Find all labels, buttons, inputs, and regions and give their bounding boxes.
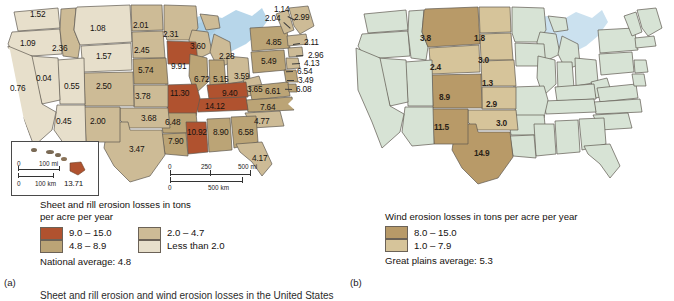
legend-b-title: Wind erosion losses in tons per acre per… (385, 211, 578, 223)
legend-label-48-89: 4.8 – 8.9 (69, 240, 106, 252)
value-label-mn: 2.31 (163, 30, 178, 38)
value-label-or: 1.09 (20, 39, 35, 47)
value-label-va: 6.61 (265, 87, 280, 95)
value-label-ca: 0.76 (10, 84, 25, 92)
value-label-hi: 13.71 (64, 180, 83, 188)
value-label-mo: 11.30 (170, 89, 189, 97)
legend-item-wind-1-79: 1.0 – 7.9 (385, 239, 451, 252)
value-label-pa: 5.49 (261, 57, 276, 65)
legend-label-wind-8-15: 8.0 – 15.0 (414, 227, 457, 239)
value-label-ma: 2.11 (304, 38, 319, 46)
value-label-b-wy: 2.4 (430, 63, 441, 71)
map-a-legend: Sheet and rill erosion losses in tons pe… (40, 199, 236, 268)
legend-b-average: Great plains average: 5.3 (385, 255, 578, 267)
value-label-ut: 0.55 (64, 82, 79, 90)
value-label-b-co: 8.9 (439, 93, 450, 101)
value-label-wv: 3.65 (247, 85, 262, 93)
legend-swatch-lt20 (138, 240, 161, 253)
panel-b-letter: (b) (350, 277, 362, 288)
value-label-wy: 1.57 (96, 52, 111, 60)
value-label-b-ks: 2.9 (486, 100, 497, 108)
value-label-tn: 14.12 (205, 102, 225, 110)
value-label-id: 2.36 (52, 44, 67, 52)
value-label-sd: 2.45 (134, 46, 149, 54)
map-a-scalebar: 0 250 500 mi 0 500 km (168, 163, 278, 197)
value-label-md: 6.08 (296, 85, 311, 93)
legend-a-rows: 9.0 – 15.0 2.0 – 4.7 4.8 – 8.9 Less than (40, 227, 236, 253)
legend-swatch-9-15 (40, 227, 63, 240)
panel-wind-erosion: 3.8 1.8 3.0 2.4 1.3 8.9 2.9 3.0 11.5 14.… (340, 0, 674, 296)
value-label-nd: 2.01 (133, 21, 148, 29)
value-label-b-ok: 3.0 (496, 119, 507, 127)
legend-row: 8.0 – 15.0 (385, 226, 578, 239)
value-label-b-mt: 3.8 (420, 34, 431, 42)
legend-label-lt20: Less than 2.0 (167, 240, 225, 252)
legend-a-title: Sheet and rill erosion losses in tons pe… (40, 199, 236, 224)
value-label-ky: 9.40 (222, 89, 237, 97)
legend-row: 9.0 – 15.0 2.0 – 4.7 (40, 227, 236, 240)
hawaii-inset: 0 100 mi 0 100 km 13.71 (11, 141, 99, 196)
legend-row: 4.8 – 8.9 Less than 2.0 (40, 240, 236, 253)
value-label-mt: 1.08 (90, 24, 105, 32)
value-label-nc: 7.64 (260, 103, 275, 111)
value-label-ia: 9.91 (171, 62, 186, 70)
value-label-nv: 0.04 (36, 74, 51, 82)
value-label-mi: 2.28 (219, 52, 234, 60)
value-label-b-tx: 14.9 (474, 149, 489, 157)
legend-swatch-wind-1-79 (385, 239, 408, 252)
value-label-ne: 5.74 (138, 66, 153, 74)
value-label-b-sd: 3.0 (478, 56, 489, 64)
value-label-ny: 4.85 (266, 38, 281, 46)
legend-a-average: National average: 4.8 (40, 256, 236, 268)
legend-swatch-2-47 (138, 227, 161, 240)
value-label-b-ne: 1.3 (482, 79, 493, 87)
value-label-tx: 3.47 (129, 145, 144, 153)
legend-swatch-wind-8-15 (385, 226, 408, 239)
legend-swatch-48-89 (40, 240, 63, 253)
legend-item-48-89: 4.8 – 8.9 (40, 240, 138, 253)
value-label-sc: 4.77 (254, 117, 269, 125)
panel-a-letter: (a) (4, 277, 16, 288)
value-label-al: 8.90 (213, 128, 228, 136)
value-label-ok: 3.68 (141, 114, 156, 122)
value-label-me: 2.99 (294, 13, 309, 21)
figure-caption: Sheet and rill erosion and wind erosion … (40, 290, 334, 301)
value-label-az: 0.45 (56, 117, 71, 125)
value-label-fl: 4.17 (252, 154, 267, 162)
value-label-wa: 1.52 (30, 10, 45, 18)
legend-item-lt20: Less than 2.0 (138, 240, 236, 253)
value-label-nh: 2.04 (265, 14, 280, 22)
value-label-la: 7.90 (168, 137, 183, 145)
legend-item-wind-8-15: 8.0 – 15.0 (385, 226, 457, 239)
map-b-graphic (340, 0, 674, 200)
us-map-b-svg (340, 0, 674, 200)
value-label-nm: 2.00 (90, 117, 105, 125)
value-label-oh: 3.59 (234, 72, 249, 80)
legend-label-9-15: 9.0 – 15.0 (69, 227, 112, 239)
value-label-ga: 6.58 (238, 128, 253, 136)
value-label-wi: 3.60 (190, 42, 205, 50)
legend-item-2-47: 2.0 – 4.7 (138, 227, 236, 240)
value-label-ks: 3.78 (135, 92, 150, 100)
legend-row: 1.0 – 7.9 (385, 239, 578, 252)
value-label-b-nd: 1.8 (474, 34, 485, 42)
value-label-co: 2.50 (96, 82, 111, 90)
panel-sheet-rill-erosion: 1.52 1.09 2.36 1.08 2.01 2.31 3.60 2.28 … (0, 0, 340, 296)
value-label-in: 5.15 (213, 75, 228, 83)
map-b-legend: Wind erosion losses in tons per acre per… (385, 211, 578, 268)
value-label-il: 6.72 (194, 75, 209, 83)
value-label-b-nm: 11.5 (434, 123, 449, 131)
value-label-ar: 6.48 (165, 118, 180, 126)
legend-label-wind-1-79: 1.0 – 7.9 (414, 240, 451, 252)
legend-label-2-47: 2.0 – 4.7 (167, 227, 204, 239)
value-label-ms: 10.92 (187, 128, 207, 136)
legend-item-9-15: 9.0 – 15.0 (40, 227, 138, 240)
legend-b-rows: 8.0 – 15.0 1.0 – 7.9 (385, 226, 578, 252)
